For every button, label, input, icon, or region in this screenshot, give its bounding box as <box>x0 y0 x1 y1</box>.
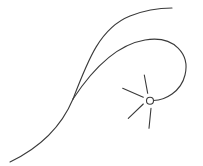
curve-upper-branch <box>73 8 172 99</box>
ray-line-2 <box>128 104 143 118</box>
ray-line-1 <box>123 88 144 97</box>
ray-line-3 <box>149 108 151 128</box>
curves-group <box>10 8 186 162</box>
curve-stem <box>10 99 73 162</box>
circle-node-icon <box>147 97 154 104</box>
ray-line-0 <box>144 75 147 93</box>
sketch-svg <box>0 0 203 166</box>
diagram-canvas <box>0 0 203 166</box>
